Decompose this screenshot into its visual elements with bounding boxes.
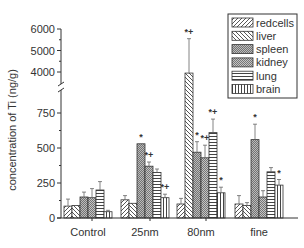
bar-kidney-fine <box>259 191 267 218</box>
y-tick-label: 4000 <box>31 66 55 78</box>
significance-marker: * <box>277 168 281 178</box>
legend-item-brain: brain <box>232 83 280 95</box>
legend-item-redcells: redcells <box>232 17 294 29</box>
svg-text:kidney: kidney <box>256 56 288 68</box>
bar-lung-80nm: *+ <box>209 107 218 218</box>
bar-chart: *+****+*+*+*+** 0250500750400050006000Co… <box>0 0 304 248</box>
significance-marker: *+ <box>185 27 194 37</box>
significance-marker: *+ <box>201 133 210 143</box>
x-tick-label: fine <box>250 226 268 238</box>
svg-text:redcells: redcells <box>256 17 294 29</box>
bar-spleen-25nm: * <box>137 132 145 218</box>
significance-marker: *+ <box>209 107 218 117</box>
y-tick-label: 500 <box>37 142 55 154</box>
bar-redcells-80nm <box>177 198 185 218</box>
bar-redcells-fine <box>235 196 243 218</box>
significance-marker: * <box>195 130 199 140</box>
y-tick-label: 0 <box>49 212 55 224</box>
bar-kidney-control <box>88 189 96 218</box>
svg-text:liver: liver <box>256 30 277 42</box>
legend-item-spleen: spleen <box>232 43 288 55</box>
bar-redcells-25nm <box>121 196 129 218</box>
bar-kidney-25nm: *+ <box>145 150 154 218</box>
significance-marker: * <box>219 175 223 185</box>
significance-marker: * <box>139 132 143 142</box>
bar-redcells-control <box>64 199 72 218</box>
legend: redcellsliverspleenkidneylungbrain <box>228 14 297 98</box>
x-tick-label: Control <box>70 226 105 238</box>
y-tick-label: 6000 <box>31 23 55 35</box>
bar-kidney-80nm: *+ <box>201 133 210 218</box>
bar-liver-80nm: *+ <box>185 27 194 218</box>
y-tick-label: 5000 <box>31 45 55 57</box>
legend-item-kidney: kidney <box>232 56 288 68</box>
bar-spleen-fine: * <box>251 112 259 218</box>
y-tick-label: 750 <box>37 107 55 119</box>
bar-lung-25nm <box>153 169 161 218</box>
bar-brain-25nm: *+ <box>161 182 170 218</box>
x-tick-label: 25nm <box>131 226 159 238</box>
significance-marker: *+ <box>145 150 154 160</box>
svg-text:brain: brain <box>256 83 280 95</box>
bar-lung-control <box>96 182 104 218</box>
svg-text:lung: lung <box>256 70 277 82</box>
bar-lung-fine <box>267 168 275 218</box>
bar-brain-control <box>104 210 112 218</box>
bar-liver-control <box>72 205 80 218</box>
y-tick-label: 250 <box>37 177 55 189</box>
y-axis-label: concentration of Ti (ng/g) <box>6 69 18 191</box>
significance-marker: *+ <box>161 182 170 192</box>
bar-spleen-control <box>80 192 88 218</box>
bar-brain-fine: * <box>275 168 283 219</box>
x-tick-label: 80nm <box>187 226 215 238</box>
bar-brain-80nm: * <box>217 175 225 218</box>
significance-marker: * <box>253 112 257 122</box>
svg-text:spleen: spleen <box>256 43 288 55</box>
bar-liver-fine <box>243 203 251 218</box>
bar-liver-25nm <box>129 203 137 218</box>
